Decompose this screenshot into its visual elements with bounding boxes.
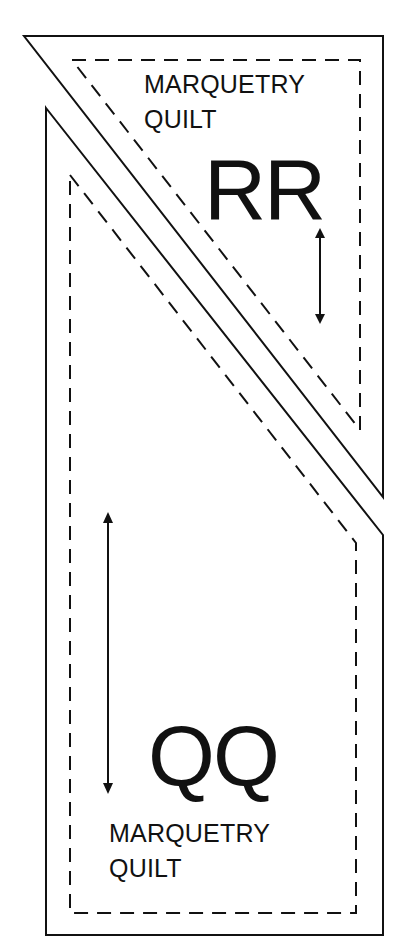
piece-rr-label-line2: QUILT [144,106,217,133]
piece-qq-code: QQ [148,713,278,799]
piece-rr-label-line1: MARQUETRY [144,71,305,98]
piece-qq-label-line2: QUILT [109,855,182,882]
piece-rr-code: RR [204,146,324,232]
piece-qq-grain-arrow [103,512,113,794]
piece-qq-label-line1: MARQUETRY [109,820,270,847]
piece-rr-grain-arrow [315,228,325,324]
